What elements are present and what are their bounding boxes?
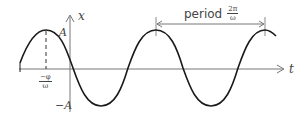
- phase-denominator: ω: [43, 82, 49, 90]
- t-axis-label: t: [289, 63, 294, 75]
- period-word: period: [184, 7, 222, 21]
- period-numerator: 2π: [227, 5, 238, 14]
- phase-label: −φ ω: [39, 73, 52, 90]
- period-denominator: ω: [230, 14, 236, 22]
- sine-curve: [20, 30, 276, 106]
- period-label: period 2π ω: [184, 5, 238, 22]
- negative-amplitude-label: −A: [55, 100, 72, 111]
- phase-numerator: −φ: [39, 73, 52, 82]
- oscillation-diagram: [0, 0, 302, 117]
- amplitude-label: A: [59, 27, 67, 38]
- x-axis-label: x: [78, 10, 85, 22]
